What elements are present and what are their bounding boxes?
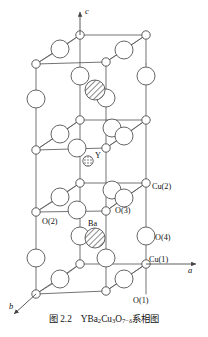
caption-text: 系相图: [132, 314, 159, 324]
b-axis-label: b: [9, 301, 13, 311]
label-cu1: Cu(1): [149, 255, 168, 264]
copper-atom: [76, 179, 84, 187]
label-o4: O(4): [155, 233, 171, 242]
label-o2: O(2): [42, 217, 58, 226]
barium-atom: [85, 228, 105, 248]
oxygen-atom: [71, 67, 89, 85]
c-axis-label: c: [85, 6, 89, 16]
copper-atom: [142, 31, 150, 39]
barium-atom: [85, 80, 105, 100]
axes-group: [14, 12, 196, 314]
oxygen-atom: [27, 90, 45, 108]
oxygen-atom: [51, 40, 69, 58]
oxygen-atom: [137, 67, 155, 85]
oxygen-atom: [115, 189, 133, 207]
figure-container: c a b Cu(2) O(3) O(2) Ba O(4) Cu(1) O(1)…: [0, 0, 208, 337]
caption-formula: YBa2Cu3O7−δ: [81, 314, 132, 324]
oxygen-atom: [68, 139, 86, 157]
oxygen-atom: [137, 227, 155, 245]
copper-atom: [32, 208, 40, 216]
label-o3: O(3): [115, 206, 131, 215]
copper-atom: [102, 207, 110, 215]
label-cu2: Cu(2): [152, 182, 171, 191]
label-y: Y: [95, 151, 101, 160]
label-ba: Ba: [88, 219, 97, 228]
label-o1: O(1): [133, 296, 149, 305]
copper-atom: [102, 144, 110, 152]
oxygen-atom: [97, 249, 115, 267]
caption-number: 图 2.2: [49, 314, 72, 324]
oxygen-atom: [51, 270, 69, 288]
copper-atom: [76, 116, 84, 124]
figure-caption: 图 2.2YBa2Cu3O7−δ系相图: [0, 313, 208, 327]
copper-atom: [32, 60, 40, 68]
copper-atom: [76, 260, 84, 268]
oxygen-atom: [27, 249, 45, 267]
copper-atom: [32, 146, 40, 154]
oxygen-atom: [115, 270, 133, 288]
copper-atom: [142, 179, 150, 187]
oxygen-atom: [51, 188, 69, 206]
oxygen-atom: [115, 41, 133, 59]
yttrium-atom: [83, 156, 93, 166]
oxygen-atom: [51, 125, 69, 143]
crystal-structure-diagram: c a b Cu(2) O(3) O(2) Ba O(4) Cu(1) O(1)…: [0, 0, 208, 337]
oxygen-atom: [115, 127, 133, 145]
copper-atom: [102, 287, 110, 295]
copper-atom: [142, 116, 150, 124]
a-axis-label: a: [188, 265, 192, 275]
oxygen-atom: [68, 201, 86, 219]
b-axis-line: [14, 294, 36, 314]
copper-atom: [102, 58, 110, 66]
